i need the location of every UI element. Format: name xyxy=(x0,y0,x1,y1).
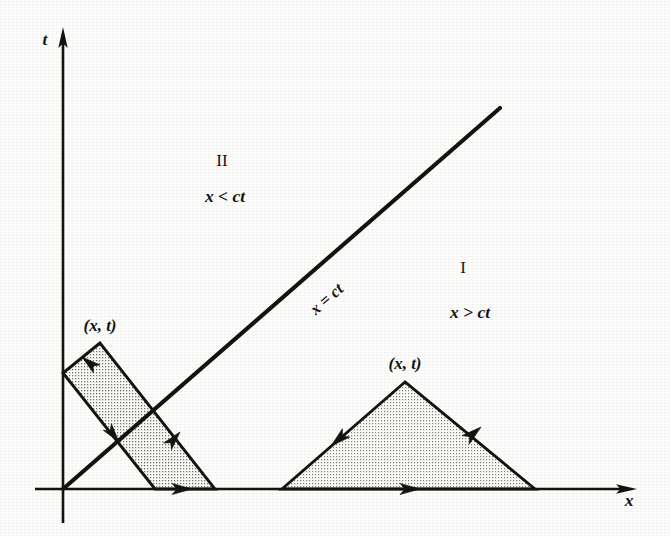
region-two-condition: x < ct xyxy=(204,186,246,206)
spacetime-figure: t x II x < ct I x > ct x = ct (x, t) (x,… xyxy=(0,0,670,536)
t-axis-label: t xyxy=(43,29,49,49)
interior-domain-apex-label: (x, t) xyxy=(388,354,421,373)
region-two-numeral: II xyxy=(216,151,228,170)
region-one-numeral: I xyxy=(460,258,466,277)
x-axis-label: x xyxy=(624,490,634,510)
triangle-fill xyxy=(282,382,535,489)
figure-canvas: t x II x < ct I x > ct x = ct (x, t) (x,… xyxy=(0,0,670,536)
characteristic-label: x = ct xyxy=(305,279,347,319)
reflected-domain-apex-label: (x, t) xyxy=(83,316,116,335)
region-one-condition: x > ct xyxy=(449,302,491,322)
characteristic-label-group: x = ct xyxy=(305,279,347,319)
shaded-domain-interior xyxy=(282,382,535,489)
